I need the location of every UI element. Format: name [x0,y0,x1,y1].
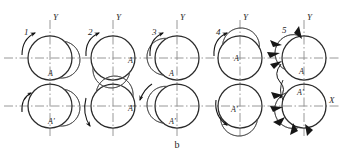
figure-container: Y Y Y Y Y X A A' 1 [0,0,343,156]
marker-arc-lower-3 [145,84,167,123]
force-arrow-icon [267,52,280,58]
step-number-4: 4 [216,27,221,37]
rotation-group-5: A A' 5 [267,25,326,136]
step-number-2: 2 [88,27,93,37]
marker-arc-lower-4 [219,116,257,138]
vertical-axes [50,20,304,136]
point-label-lower-5: A' [296,88,304,97]
rotation-group-4: A A' 4 [214,26,262,137]
force-arrow-icon [270,106,283,112]
axis-label-y-3: Y [180,12,186,22]
rotation-group-2: A A' 2 [85,27,136,128]
rotation-group-1: A A' 1 [22,27,82,129]
point-label-upper-1: A [47,69,53,78]
rotation-arrow-lower-2 [85,98,90,126]
rotation-sequence-diagram: Y Y Y Y Y X A A' 1 [0,0,343,156]
point-label-lower-1: A' [47,117,55,126]
force-arrow-icon [290,123,298,135]
figure-caption: b [175,139,180,150]
point-label-lower-2: A' [127,104,135,113]
axis-label-x: X [328,95,335,105]
axis-label-y-5: Y [307,12,313,22]
point-label-lower-4: A' [230,105,238,114]
axis-label-y-1: Y [53,12,59,22]
point-label-upper-2: A [127,56,133,65]
force-arrows-lower-5 [270,92,313,136]
step-number-1: 1 [24,27,29,37]
marker-arc-upper-1 [59,41,82,80]
force-arrow-icon [273,117,285,126]
point-label-lower-3: A' [168,117,176,126]
axis-label-y-4: Y [243,12,249,22]
point-label-upper-4: A [233,54,239,63]
rotation-arrow-lower-1 [22,93,31,112]
step-number-5: 5 [282,25,287,35]
point-label-upper-5: A [298,67,304,76]
marker-arc-upper-4 [223,26,261,48]
force-arrow-icon [270,40,282,47]
marker-arc-upper-3 [145,36,167,75]
marker-arc-lower-1 [59,89,82,128]
force-arrow-icon [305,124,313,136]
axis-label-y-2: Y [116,12,122,22]
horizontal-axes [4,58,339,106]
rotation-arrow-lower-3 [140,84,152,100]
point-label-upper-3: A [168,69,174,78]
step-number-3: 3 [151,27,157,37]
rotation-group-3: A A' 3 [140,27,199,128]
rotation-arrow-lower-4 [216,100,227,125]
